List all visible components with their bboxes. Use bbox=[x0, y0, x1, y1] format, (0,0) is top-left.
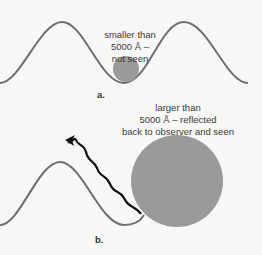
label-a-line2: 5000 Å – bbox=[100, 41, 160, 53]
label-a-line3: not seen bbox=[100, 53, 160, 65]
large-particle-label: larger than 5000 Å – reflected back to o… bbox=[118, 102, 238, 138]
label-a-line1: smaller than bbox=[100, 29, 160, 41]
large-particle bbox=[131, 135, 223, 227]
light-wave-b bbox=[0, 162, 144, 225]
caption-b: b. bbox=[95, 234, 103, 245]
label-b-line2: 5000 Å – reflected bbox=[118, 114, 238, 126]
caption-a: a. bbox=[97, 89, 105, 100]
small-particle-label: smaller than 5000 Å – not seen bbox=[100, 29, 160, 65]
label-b-line3: back to observer and seen bbox=[118, 126, 238, 138]
label-b-line1: larger than bbox=[118, 102, 238, 114]
